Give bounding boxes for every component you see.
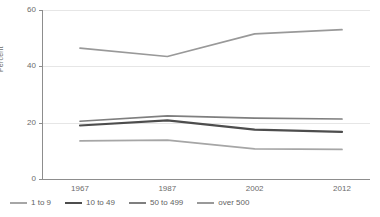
plot-area — [42, 10, 370, 179]
legend-swatch-icon — [10, 202, 27, 204]
series-line — [80, 116, 342, 121]
legend-swatch-icon — [129, 202, 146, 204]
x-tick-label: 1967 — [60, 185, 100, 193]
legend-label: 50 to 499 — [150, 199, 183, 207]
x-axis-line — [42, 179, 370, 180]
y-tick-label: 0 — [12, 175, 36, 183]
y-tick-label: 20 — [12, 119, 36, 127]
legend-swatch-icon — [65, 202, 82, 205]
legend-item[interactable]: over 500 — [197, 199, 249, 207]
legend-item[interactable]: 10 to 49 — [65, 199, 115, 207]
legend-swatch-icon — [197, 202, 214, 204]
legend-label: 10 to 49 — [86, 199, 115, 207]
x-tick-label: 2002 — [235, 185, 275, 193]
legend-label: 1 to 9 — [31, 199, 51, 207]
x-tick-label: 2012 — [322, 185, 362, 193]
y-tick-label: 40 — [12, 62, 36, 70]
series-lines — [42, 10, 370, 179]
series-line — [80, 140, 342, 149]
line-chart: Percent 0204060 1967198720022012 1 to 91… — [0, 0, 380, 217]
y-axis-title: Percent — [0, 46, 4, 72]
legend-item[interactable]: 1 to 9 — [10, 199, 51, 207]
series-line — [80, 120, 342, 132]
legend-item[interactable]: 50 to 499 — [129, 199, 183, 207]
legend-label: over 500 — [218, 199, 249, 207]
y-tick-mark — [39, 179, 42, 180]
x-tick-label: 1987 — [147, 185, 187, 193]
series-line — [80, 30, 342, 57]
chart-legend: 1 to 910 to 4950 to 499over 500 — [10, 199, 249, 207]
y-tick-label: 60 — [12, 6, 36, 14]
